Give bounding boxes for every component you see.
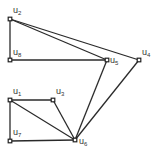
node-u4 [137, 58, 141, 62]
graph-diagram: u2u8u5u4u1u3u7u6 [0, 0, 158, 152]
edges-group [10, 19, 139, 141]
node-label-u3: u3 [56, 86, 65, 97]
edge-u3-u6 [53, 100, 75, 140]
node-label-u2: u2 [13, 5, 22, 16]
node-u3 [51, 98, 55, 102]
node-label-u4: u4 [142, 47, 151, 58]
node-u1 [8, 98, 12, 102]
node-u7 [8, 139, 12, 143]
node-u6 [73, 138, 77, 142]
edge-u2-u5 [10, 19, 107, 60]
node-u5 [105, 58, 109, 62]
edge-u7-u6 [10, 140, 75, 141]
node-u8 [8, 58, 12, 62]
nodes-group [8, 17, 141, 143]
node-label-u7: u7 [13, 127, 22, 138]
edge-u5-u6 [75, 60, 107, 140]
node-label-u5: u5 [110, 55, 119, 66]
node-label-u8: u8 [13, 47, 22, 58]
node-u2 [8, 17, 12, 21]
edge-u2-u4 [10, 19, 139, 60]
node-label-u6: u6 [79, 136, 88, 147]
edge-u4-u6 [75, 60, 139, 140]
node-label-u1: u1 [13, 86, 22, 97]
